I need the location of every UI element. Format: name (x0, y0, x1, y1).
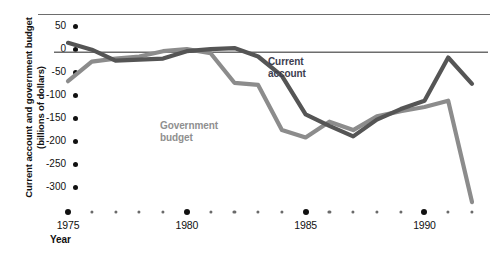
x-axis-minor-dot (209, 210, 212, 213)
x-axis-minor-dot (399, 210, 402, 213)
x-axis-minor-dot (280, 210, 283, 213)
x-axis-minor-dot (161, 210, 164, 213)
x-axis-major-dot (303, 209, 309, 215)
x-axis-minor-dot (375, 210, 378, 213)
x-axis-minor-dot (138, 210, 141, 213)
x-tick-label: 1980 (176, 219, 199, 231)
x-axis-minor-dot (90, 210, 93, 213)
x-axis-minor-dot (328, 210, 331, 213)
x-axis-major-dot (65, 209, 71, 215)
x-axis-minor-dot (114, 210, 117, 213)
x-axis-major-dot (184, 209, 190, 215)
x-tick-label: 1990 (413, 219, 436, 231)
x-axis-minor-dot (470, 210, 473, 213)
x-axis-minor-dot (447, 210, 450, 213)
x-tick-label: 1975 (57, 219, 80, 231)
x-axis-major-dot (421, 209, 427, 215)
x-axis-title: Year (50, 234, 71, 245)
x-axis-minor-dot (233, 210, 236, 213)
x-axis-dots: 1975198019851990 (0, 0, 490, 260)
chart-figure: Current account and government budget (b… (0, 0, 490, 260)
x-axis-minor-dot (257, 210, 260, 213)
x-tick-label: 1985 (294, 219, 317, 231)
x-axis-minor-dot (352, 210, 355, 213)
